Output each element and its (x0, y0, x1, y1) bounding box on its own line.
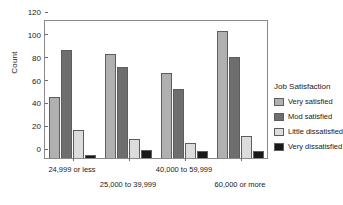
y-tick-label: 60 (32, 76, 45, 85)
x-axis-label: 24,999 or less (32, 165, 112, 174)
bar (49, 97, 60, 158)
x-axis-label: 40,000 to 59,999 (144, 165, 224, 174)
y-tick-label: 120 (28, 8, 45, 17)
y-axis-title: Count (10, 33, 19, 93)
bar (229, 57, 240, 158)
legend-item: Little dissatisfied (274, 127, 342, 136)
x-tick (241, 158, 242, 161)
bar (129, 139, 140, 158)
x-axis-label: 60,000 or more (200, 180, 280, 189)
legend-items: Very satisfiedMod satisfiedLittle dissat… (274, 97, 342, 151)
legend-item: Mod satisfied (274, 112, 342, 121)
legend-item: Very satisfied (274, 97, 342, 106)
bar-group (105, 21, 152, 158)
bar (141, 150, 152, 158)
bar (197, 151, 208, 158)
bar-group (217, 21, 264, 158)
bar (241, 136, 252, 158)
x-axis-label: 25,000 to 39,999 (88, 180, 168, 189)
y-tick-label: 100 (28, 30, 45, 39)
bar (61, 50, 72, 158)
legend-label: Very dissatisfied (288, 142, 342, 151)
bar (217, 31, 228, 158)
y-tick-label: 40 (32, 99, 45, 108)
y-tick-label: 20 (32, 122, 45, 131)
legend: Job Satisfaction Very satisfiedMod satis… (274, 82, 342, 157)
bar-group (161, 21, 208, 158)
bar (105, 54, 116, 158)
legend-swatch (274, 128, 284, 136)
plot-area: 020406080100120 (44, 20, 268, 159)
legend-title: Job Satisfaction (274, 82, 342, 91)
bar (85, 155, 96, 158)
legend-swatch (274, 98, 284, 106)
bar-group (49, 21, 96, 158)
bar (73, 130, 84, 158)
x-tick (73, 158, 74, 161)
bar (173, 89, 184, 159)
legend-label: Very satisfied (288, 97, 333, 106)
legend-label: Mod satisfied (288, 112, 332, 121)
legend-swatch (274, 113, 284, 121)
bar (161, 73, 172, 158)
y-tick-label: 0 (37, 145, 45, 154)
x-tick (185, 158, 186, 161)
bar (253, 151, 264, 158)
bar (117, 67, 128, 159)
legend-item: Very dissatisfied (274, 142, 342, 151)
legend-label: Little dissatisfied (288, 127, 343, 136)
bar (185, 143, 196, 158)
y-tick-label: 80 (32, 53, 45, 62)
legend-swatch (274, 143, 284, 151)
x-tick (129, 158, 130, 161)
